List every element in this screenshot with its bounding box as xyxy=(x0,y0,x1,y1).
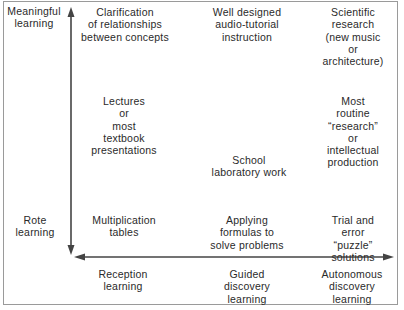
arrow-down-icon xyxy=(68,245,75,255)
cell-top-right: Scientific research (new music or archit… xyxy=(323,6,384,67)
horizontal-axis-label-autonomous-discovery: Autonomous discovery learning xyxy=(322,268,383,305)
cell-middle-left: Lectures or most textbook presentations xyxy=(91,95,157,156)
cell-middle-center: School laboratory work xyxy=(212,154,287,179)
arrow-left-icon xyxy=(74,254,85,261)
arrow-right-icon xyxy=(383,254,394,261)
vertical-axis-top-label: Meaningful learning xyxy=(7,5,60,30)
cell-top-left: Clarification of relationships between c… xyxy=(81,6,169,43)
horizontal-axis-label-guided-discovery: Guided discovery learning xyxy=(224,268,270,305)
vertical-axis-bottom-label: Rote learning xyxy=(16,214,55,239)
cell-bottom-right: Trial and error “puzzle” solutions xyxy=(328,214,379,263)
horizontal-axis-label-reception: Reception learning xyxy=(98,268,147,293)
cell-top-center: Well designed audio-tutorial instruction xyxy=(213,6,281,43)
arrow-up-icon xyxy=(68,7,75,17)
cell-bottom-left: Multiplication tables xyxy=(92,214,156,239)
cell-bottom-center: Applying formulas to solve problems xyxy=(210,214,283,251)
cell-middle-right: Most routine “research” or intellectual … xyxy=(327,95,379,169)
